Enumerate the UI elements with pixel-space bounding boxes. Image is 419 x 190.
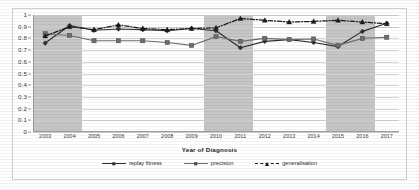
data-point-marker <box>312 37 316 41</box>
y-axis-tick <box>28 120 31 121</box>
x-axis-tick-label: 2014 <box>307 134 319 139</box>
x-axis-tick-label: 2011 <box>234 134 246 139</box>
x-axis-tick-label: 2007 <box>137 134 149 139</box>
y-axis-tick-label: 1 <box>23 12 27 18</box>
data-point-marker <box>165 40 169 44</box>
data-point-marker <box>238 39 242 43</box>
y-axis-labels: 00.10.20.30.40.50.60.70.80.91 <box>0 15 31 132</box>
series-precision <box>43 32 389 48</box>
x-axis-title: Year of Diagnosis <box>0 146 419 153</box>
y-axis-tick <box>28 108 31 109</box>
x-axis-tick-label: 2012 <box>259 134 271 139</box>
x-axis-tick-label: 2016 <box>356 134 368 139</box>
x-axis-tick-label: 2015 <box>332 134 344 139</box>
legend-swatch-diamond-icon <box>102 160 126 167</box>
x-axis-tick-label: 2005 <box>88 134 100 139</box>
legend-label: precision <box>211 161 233 167</box>
y-axis-tick <box>28 85 31 86</box>
y-axis-tick-label: 0.9 <box>18 24 27 30</box>
y-axis-tick-label: 0.2 <box>18 105 27 111</box>
x-axis-labels: 2003200420052006200720082009201020112012… <box>33 134 399 146</box>
y-axis-tick <box>28 96 31 97</box>
y-axis-tick <box>28 61 31 62</box>
y-axis-tick <box>28 73 31 74</box>
legend-swatch-square-icon <box>184 160 208 167</box>
y-axis-tick <box>28 15 31 16</box>
y-axis-tick <box>28 132 31 133</box>
plot-area <box>33 15 399 132</box>
data-point-marker <box>141 39 145 43</box>
x-axis-tick-label: 2008 <box>161 134 173 139</box>
data-point-marker <box>116 39 120 43</box>
y-axis-tick <box>28 26 31 27</box>
data-point-marker <box>214 35 218 39</box>
legend-label: generalisation <box>282 161 317 167</box>
data-point-marker <box>92 39 96 43</box>
legend-item-precision[interactable]: precision <box>184 160 233 167</box>
data-point-marker <box>287 37 291 41</box>
y-axis-tick-label: 0 <box>23 129 27 135</box>
x-axis-tick-label: 2003 <box>39 134 51 139</box>
legend-label: replay fitness <box>129 161 162 167</box>
chart-legend: replay fitnessprecisiongeneralisation <box>0 160 419 167</box>
y-axis-tick <box>28 38 31 39</box>
data-point-marker <box>190 43 194 47</box>
y-axis-tick-label: 0.1 <box>18 117 27 123</box>
y-axis-tick-label: 0.3 <box>18 94 27 100</box>
chart-container: 00.10.20.30.40.50.60.70.80.91 2003200420… <box>0 0 419 190</box>
x-axis-tick-label: 2009 <box>185 134 197 139</box>
data-point-marker <box>116 27 121 32</box>
y-axis-tick-label: 0.7 <box>18 47 27 53</box>
y-axis-tick-label: 0.8 <box>18 35 27 41</box>
y-axis-line <box>33 15 34 132</box>
data-point-marker <box>385 35 389 39</box>
x-axis-tick-label: 2006 <box>112 134 124 139</box>
x-axis-tick-label: 2010 <box>210 134 222 139</box>
data-point-marker <box>263 36 267 40</box>
y-axis-tick-label: 0.4 <box>18 82 27 88</box>
legend-item-generalisation[interactable]: generalisation <box>255 160 317 167</box>
legend-swatch-triangle-icon <box>255 160 279 167</box>
y-axis-tick <box>28 50 31 51</box>
data-point-marker <box>360 36 364 40</box>
data-point-marker <box>68 33 72 37</box>
x-axis-tick-label: 2013 <box>283 134 295 139</box>
y-axis-tick-label: 0.5 <box>18 70 27 76</box>
legend-item-replay-fitness[interactable]: replay fitness <box>102 160 162 167</box>
y-axis-tick-label: 0.6 <box>18 59 27 65</box>
data-point-marker <box>336 43 340 47</box>
x-axis-tick-label: 2004 <box>63 134 75 139</box>
x-axis-line <box>33 131 399 132</box>
series-layer <box>33 15 399 132</box>
x-axis-tick-label: 2017 <box>381 134 393 139</box>
